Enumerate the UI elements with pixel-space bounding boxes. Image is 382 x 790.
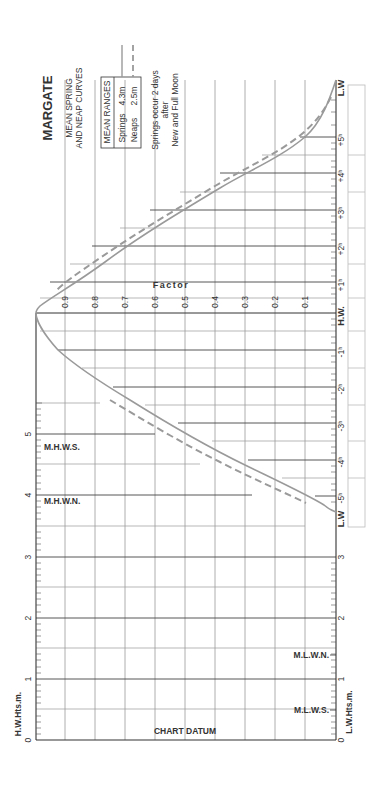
svg-text:-4ʰ: -4ʰ: [336, 457, 346, 468]
time-gridlines: [36, 137, 336, 496]
lw-heights-axis-title: L.W.Hts.m.: [344, 690, 354, 733]
chart-subtitle-2: AND NEAP CURVES: [74, 67, 84, 148]
svg-text:0.5: 0.5: [180, 296, 190, 308]
svg-text:0.9: 0.9: [60, 296, 70, 308]
svg-text:+4ʰ: +4ʰ: [336, 170, 346, 183]
time-entry-boxes: [348, 85, 365, 527]
hw-height-labels: 0 1 2 3 4 5: [23, 431, 33, 742]
svg-text:0: 0: [336, 737, 346, 742]
svg-text:-2ʰ: -2ʰ: [336, 384, 346, 395]
factor-gridlines: [65, 80, 305, 740]
height-gridlines: [36, 403, 336, 740]
svg-text:0.6: 0.6: [150, 296, 160, 308]
label-mhws: M.H.W.S.: [44, 442, 80, 452]
svg-text:+2ʰ: +2ʰ: [336, 243, 346, 256]
svg-text:-1ʰ: -1ʰ: [336, 347, 346, 358]
tidal-curve-chart: MARGATE MEAN SPRING AND NEAP CURVES MEAN…: [0, 0, 382, 790]
legend-springs-label: Springs: [117, 114, 127, 143]
label-mhwn: M.H.W.N.: [44, 496, 80, 506]
legend-neaps-label: Neaps: [129, 118, 139, 143]
svg-text:-5ʰ: -5ʰ: [336, 493, 346, 504]
time-axis-ticks: [331, 100, 336, 734]
svg-text:-3ʰ: -3ʰ: [336, 421, 346, 432]
legend-neaps-value: 2.5m: [129, 87, 139, 106]
svg-text:0: 0: [23, 737, 33, 742]
svg-text:2: 2: [23, 615, 33, 620]
hw-height-ticks: [36, 403, 42, 734]
svg-text:0.2: 0.2: [270, 296, 280, 308]
svg-text:5: 5: [23, 431, 33, 436]
label-mlwn: M.L.W.N.: [294, 650, 329, 660]
svg-text:3: 3: [336, 554, 346, 559]
svg-text:0.3: 0.3: [240, 296, 250, 308]
label-mlws: M.L.W.S.: [294, 705, 329, 715]
time-axis-labels: L.W +5ʰ +4ʰ +3ʰ +2ʰ +1ʰ H.W. -1ʰ -2ʰ -3ʰ…: [336, 79, 346, 527]
chart-title: MARGATE: [40, 75, 55, 140]
svg-text:3: 3: [23, 554, 33, 559]
springs-note-3: New and Full Moon: [170, 73, 180, 147]
svg-text:0.1: 0.1: [300, 296, 310, 308]
svg-text:+5ʰ: +5ʰ: [336, 134, 346, 147]
svg-text:1: 1: [23, 676, 33, 681]
hw-heights-axis-title: H.W.Hts.m.: [13, 692, 23, 736]
svg-text:+3ʰ: +3ʰ: [336, 207, 346, 220]
label-lw-top: L.W: [336, 79, 346, 96]
svg-text:2: 2: [336, 615, 346, 620]
svg-text:+1ʰ: +1ʰ: [336, 279, 346, 292]
factor-axis-label: Factor: [153, 280, 190, 290]
label-chart-datum: CHART DATUM: [154, 726, 216, 736]
label-lw-bottom: L.W: [336, 510, 346, 527]
label-hw: H.W.: [336, 306, 346, 326]
mean-ranges-legend: MEAN RANGES Springs 4.3m Neaps 2.5m: [101, 45, 141, 148]
svg-text:1: 1: [336, 676, 346, 681]
svg-text:4: 4: [23, 492, 33, 497]
legend-header: MEAN RANGES: [102, 80, 112, 143]
springs-note-1: Springs occur 2 days: [150, 70, 160, 149]
chart-subtitle-1: MEAN SPRING: [64, 78, 74, 138]
factor-tick-labels: 0.9 0.8 0.7 0.6 0.5 0.4 0.3 0.2 0.1: [60, 296, 310, 308]
svg-text:0.8: 0.8: [90, 296, 100, 308]
svg-text:0.7: 0.7: [120, 296, 130, 308]
springs-note-2: after: [160, 101, 170, 118]
legend-springs-value: 4.3m: [117, 87, 127, 106]
svg-text:0.4: 0.4: [210, 296, 220, 308]
